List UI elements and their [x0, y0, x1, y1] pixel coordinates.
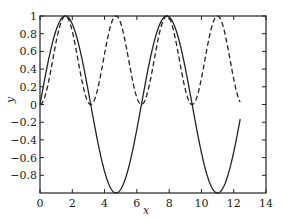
y-tick-label: 0.2 — [20, 81, 38, 94]
y-tick-label: −0.8 — [10, 169, 37, 182]
series-sin2-line — [40, 16, 240, 105]
x-tick-label: 14 — [259, 197, 273, 210]
y-tick-label: −0.4 — [10, 134, 37, 147]
y-tick-label: −0.2 — [10, 116, 37, 129]
x-tick-label: 6 — [133, 197, 140, 210]
y-tick-label: 0 — [30, 99, 37, 112]
x-axis-label: x — [143, 204, 150, 217]
x-tick-label: 0 — [37, 197, 44, 210]
y-axis-label: y — [4, 96, 17, 104]
x-tick-label: 2 — [69, 197, 76, 210]
plot-frame — [40, 16, 266, 193]
x-tick-label: 10 — [194, 197, 208, 210]
line-chart: 0246810121410.80.60.40.20−0.2−0.4−0.6−0.… — [0, 0, 283, 220]
y-tick-label: 0.6 — [20, 45, 38, 58]
x-tick-label: 4 — [101, 197, 108, 210]
y-tick-label: 0.8 — [20, 28, 38, 41]
y-tick-label: 1 — [30, 10, 37, 23]
series-sin-line — [40, 16, 240, 193]
y-tick-label: 0.4 — [20, 63, 38, 76]
x-tick-label: 8 — [166, 197, 173, 210]
y-tick-label: −0.6 — [10, 152, 37, 165]
x-tick-label: 12 — [227, 197, 241, 210]
